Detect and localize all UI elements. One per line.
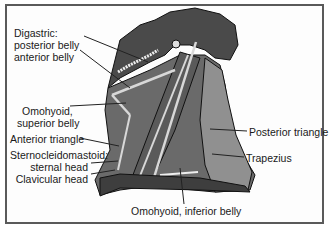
label-digastric-posterior: posterior belly	[14, 39, 79, 51]
label-anterior-triangle: Anterior triangle	[10, 133, 84, 145]
trapezius-region	[200, 58, 252, 192]
label-omohyoid-superior: superior belly	[17, 117, 79, 129]
label-scm-clavicular: Clavicular head	[10, 173, 88, 185]
label-omohyoid-inferior: Omohyoid, inferior belly	[131, 205, 241, 217]
label-posterior-triangle: Posterior triangle	[249, 126, 328, 138]
ear-icon	[172, 40, 180, 48]
label-scm-title: Sternocleidomastoid:	[10, 149, 108, 161]
label-trapezius: Trapezius	[246, 152, 292, 164]
label-digastric-title: Digastric:	[14, 27, 58, 39]
label-digastric-anterior: anterior belly	[14, 51, 74, 63]
label-scm-sternal: sternal head	[10, 161, 88, 173]
label-omohyoid-title: Omohyoid,	[22, 105, 73, 117]
